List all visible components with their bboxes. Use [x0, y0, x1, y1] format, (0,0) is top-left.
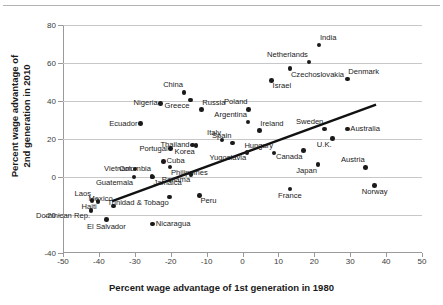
data-point-label: Norway [362, 188, 388, 197]
gridline-y-20 [63, 139, 422, 140]
x-tick-label-0: 0 [240, 257, 244, 266]
x-axis-title: Percent wage advantage of 1st generation… [0, 282, 443, 293]
data-point-marker [182, 90, 187, 95]
data-point-marker [168, 146, 173, 151]
x-tick-label-30: 30 [346, 257, 355, 266]
data-point-label: Nicaragua [156, 220, 191, 229]
data-point-marker [345, 77, 350, 82]
x-tick-label-40: 40 [382, 257, 391, 266]
data-point-label: Colombia [119, 165, 151, 174]
y-tick-60 [58, 63, 63, 64]
data-point-label: Ecuador [109, 119, 137, 128]
y-tick-80 [58, 25, 63, 26]
data-point-label: Nigeria [134, 99, 158, 108]
plot-area: -40-20020406080 -50-40-30-20-10010203040… [63, 25, 422, 253]
data-point-label: Greece [165, 102, 190, 111]
y-axis-title-line-1: Percent wage advantage of [9, 55, 20, 177]
x-tick-label--10: -10 [201, 257, 213, 266]
x-tick-label-10: 10 [274, 257, 283, 266]
data-point-marker [138, 121, 143, 126]
y-axis-title-line-2: 2nd generation in 2010 [21, 65, 32, 168]
y-tick-0 [58, 177, 63, 178]
data-point-label: Canada [276, 153, 303, 162]
data-point-label: Portugal [139, 144, 167, 153]
data-point-label: Guatemala [96, 179, 133, 188]
y-tick-label-0: 0 [52, 173, 56, 182]
data-point-label: Korea [175, 148, 195, 157]
data-point-label: Israel [273, 82, 292, 91]
data-point-label: Sweden [296, 118, 323, 127]
scatter-chart-figure: -40-20020406080 -50-40-30-20-10010203040… [0, 0, 443, 305]
x-tick-label-20: 20 [310, 257, 319, 266]
data-point-label: Czechoslovakia [291, 71, 344, 80]
top-divider-rule [3, 5, 440, 6]
data-point-label: Australia [350, 125, 380, 134]
y-tick-label--40: -40 [44, 249, 56, 258]
data-point-marker [161, 159, 166, 164]
data-point-label: U.K. [317, 141, 332, 150]
data-point-label: Austria [341, 156, 365, 165]
y-tick-label-80: 80 [47, 21, 56, 30]
data-point-marker [322, 127, 327, 132]
x-tick-label--30: -30 [129, 257, 141, 266]
y-tick-40 [58, 101, 63, 102]
x-tick-label-50: 50 [418, 257, 427, 266]
y-tick-20 [58, 139, 63, 140]
y-tick-label-60: 60 [47, 59, 56, 68]
data-point-label: Argentina [214, 111, 247, 120]
data-point-label: Japan [296, 167, 317, 176]
data-point-label: Jamaica [153, 179, 181, 188]
data-point-marker [158, 101, 163, 106]
gridline-y-60 [63, 63, 422, 64]
data-point-label: El Salvador [87, 223, 126, 232]
data-point-marker [363, 165, 368, 170]
data-point-marker [345, 127, 350, 132]
data-point-label: Poland [224, 98, 248, 107]
x-tick-label--40: -40 [93, 257, 105, 266]
data-point-label: Hungary [244, 142, 273, 151]
data-point-label: Netherlands [267, 51, 308, 60]
data-point-label: China [163, 81, 183, 90]
data-point-label: Ireland [260, 120, 283, 129]
gridline-y--20 [63, 215, 422, 216]
data-point-label: Dominican Rep. [36, 212, 90, 221]
data-point-label: Peru [200, 197, 216, 206]
data-point-marker [257, 128, 262, 133]
data-point-label: Trinidad & Tobago [107, 199, 168, 208]
x-tick-label--20: -20 [165, 257, 177, 266]
data-point-marker [199, 107, 204, 112]
x-tick-label--50: -50 [57, 257, 69, 266]
data-point-label: Russia [202, 99, 225, 108]
data-point-label: France [278, 192, 302, 201]
y-axis-title: Percent wage advantage of 2nd generation… [9, 16, 33, 216]
data-point-label: Denmark [348, 68, 379, 77]
y-tick-label-20: 20 [47, 135, 56, 144]
data-point-label: India [320, 34, 336, 43]
data-point-label: Spain [212, 132, 231, 141]
data-point-label: Yugoslavia [209, 154, 246, 163]
y-tick-label-40: 40 [47, 97, 56, 106]
